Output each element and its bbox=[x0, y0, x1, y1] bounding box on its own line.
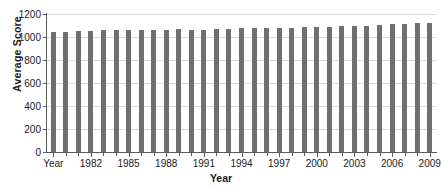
x-tick-label: 2006 bbox=[381, 158, 403, 169]
x-tick-label: 1991 bbox=[193, 158, 215, 169]
x-tick-mark bbox=[191, 153, 192, 156]
x-tick-mark bbox=[154, 153, 155, 156]
x-tick-label: 1994 bbox=[230, 158, 252, 169]
x-tick-label: 1985 bbox=[117, 158, 139, 169]
y-tick-label: 1200 bbox=[19, 9, 41, 20]
x-tick-mark bbox=[179, 153, 180, 156]
x-tick-mark bbox=[267, 153, 268, 156]
y-axis-line bbox=[46, 13, 47, 153]
x-tick-mark bbox=[254, 153, 255, 156]
x-tick-mark bbox=[279, 153, 280, 157]
x-tick-mark bbox=[78, 153, 79, 156]
y-tick-label: 200 bbox=[24, 124, 41, 135]
x-axis-title: Year bbox=[0, 172, 442, 184]
x-tick-mark bbox=[216, 153, 217, 156]
y-tick-label: 1000 bbox=[19, 32, 41, 43]
x-tick-label: 2000 bbox=[306, 158, 328, 169]
y-axis-ticks: 020040060080010001200 bbox=[47, 14, 436, 152]
x-tick-mark bbox=[141, 153, 142, 156]
x-tick-mark bbox=[354, 153, 355, 157]
x-tick-label: 1997 bbox=[268, 158, 290, 169]
bar-chart: Average Score 020040060080010001200 Year… bbox=[0, 0, 442, 191]
x-tick-mark bbox=[129, 153, 130, 157]
x-tick-mark bbox=[317, 153, 318, 157]
x-tick-label: Year bbox=[43, 158, 63, 169]
x-tick-mark bbox=[329, 153, 330, 156]
x-tick-mark bbox=[367, 153, 368, 156]
x-tick-mark bbox=[116, 153, 117, 156]
y-tick-label: 400 bbox=[24, 101, 41, 112]
x-tick-mark bbox=[304, 153, 305, 156]
y-tick-label: 800 bbox=[24, 55, 41, 66]
x-tick-mark bbox=[405, 153, 406, 156]
y-tick-label: 0 bbox=[35, 147, 41, 158]
x-tick-mark bbox=[66, 153, 67, 156]
x-tick-mark bbox=[229, 153, 230, 156]
x-tick-mark bbox=[380, 153, 381, 156]
x-tick-label: 2003 bbox=[343, 158, 365, 169]
x-tick-mark bbox=[166, 153, 167, 157]
x-tick-mark bbox=[342, 153, 343, 156]
y-tick-label: 600 bbox=[24, 78, 41, 89]
x-tick-mark bbox=[430, 153, 431, 157]
x-tick-mark bbox=[392, 153, 393, 157]
x-tick-label: 2009 bbox=[419, 158, 441, 169]
x-tick-mark bbox=[204, 153, 205, 157]
x-tick-mark bbox=[91, 153, 92, 157]
x-axis-tick-labels: Year198219851988199119941997200020032006… bbox=[47, 158, 436, 172]
x-tick-mark bbox=[53, 153, 54, 157]
x-tick-label: 1988 bbox=[155, 158, 177, 169]
x-tick-mark bbox=[417, 153, 418, 156]
x-tick-mark bbox=[292, 153, 293, 156]
x-tick-label: 1982 bbox=[80, 158, 102, 169]
x-tick-mark bbox=[242, 153, 243, 157]
x-tick-mark bbox=[103, 153, 104, 156]
